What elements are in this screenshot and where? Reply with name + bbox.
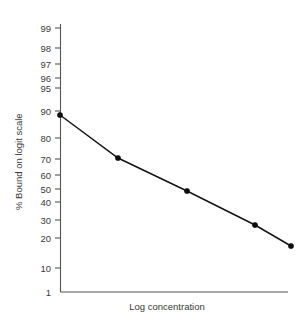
y-axis-ticks <box>55 28 61 268</box>
y-axis-tick-labels: 99 98 97 96 95 90 80 70 60 50 40 30 20 1… <box>40 23 51 298</box>
y-tick-label-97: 97 <box>40 59 51 70</box>
x-axis-title: Log concentration <box>129 301 205 312</box>
y-tick-label-30: 30 <box>40 215 51 226</box>
y-tick-label-40: 40 <box>40 197 51 208</box>
y-tick-label-80: 80 <box>40 133 51 144</box>
y-tick-label-20: 20 <box>40 233 51 244</box>
y-tick-label-90: 90 <box>40 106 51 117</box>
y-tick-label-50: 50 <box>40 184 51 195</box>
y-tick-label-99: 99 <box>40 23 51 34</box>
y-axis-title: % Bound on logit scale <box>13 113 24 210</box>
data-point[interactable] <box>184 188 189 193</box>
y-tick-label-10: 10 <box>40 263 51 274</box>
y-tick-label-95: 95 <box>40 83 51 94</box>
chart-page: 99 98 97 96 95 90 80 70 60 50 40 30 20 1… <box>0 0 304 323</box>
logit-plot: 99 98 97 96 95 90 80 70 60 50 40 30 20 1… <box>0 0 304 323</box>
y-tick-label-98: 98 <box>40 43 51 54</box>
y-tick-label-70: 70 <box>40 154 51 165</box>
data-points <box>57 112 293 248</box>
data-point[interactable] <box>57 112 62 117</box>
data-point[interactable] <box>288 243 293 248</box>
y-tick-label-1: 1 <box>46 287 51 298</box>
data-point[interactable] <box>252 222 257 227</box>
y-tick-label-60: 60 <box>40 170 51 181</box>
data-point[interactable] <box>115 155 120 160</box>
